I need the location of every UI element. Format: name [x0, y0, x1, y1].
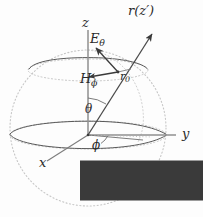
h-phi-subscript: ϕ	[91, 77, 97, 88]
phi-angle-label: ϕ	[92, 139, 100, 151]
e-theta-label: Eθ	[90, 32, 105, 45]
x-axis-label: x	[39, 156, 46, 169]
z-axis-label: z	[82, 16, 89, 29]
h-phi-label: Hϕ	[80, 72, 98, 85]
r0-subscript: 0	[125, 75, 130, 84]
r0-point-label: r0	[120, 71, 130, 82]
radial-ray-label: r(z′)	[128, 4, 154, 17]
theta-angle-label: θ	[85, 103, 92, 115]
h-phi-vector-group: H	[80, 72, 91, 85]
spherical-coordinate-diagram: z y x r(z′) Eθ Hϕ θ ϕ r0	[0, 0, 203, 217]
e-theta-subscript: θ	[99, 37, 105, 48]
